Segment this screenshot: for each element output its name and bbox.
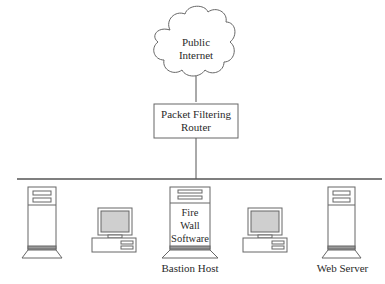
firewall-software-label: Fire Wall Software [170,206,210,245]
workstation-icon [243,208,287,252]
web-server-icon [322,187,361,258]
router-label: Packet Filtering Router [154,108,238,134]
cloud-label: Public Internet [166,36,226,62]
web-server-caption: Web Server [305,262,380,275]
router-label-line2: Router [154,121,238,134]
cloud-label-line2: Internet [166,49,226,62]
router-label-line1: Packet Filtering [154,108,238,121]
firewall-line3: Software [170,232,210,245]
firewall-line2: Wall [170,219,210,232]
server-tower-icon [22,187,62,258]
bastion-host-caption: Bastion Host [150,262,230,275]
workstation-icon [92,208,136,252]
cloud-label-line1: Public [166,36,226,49]
firewall-line1: Fire [170,206,210,219]
